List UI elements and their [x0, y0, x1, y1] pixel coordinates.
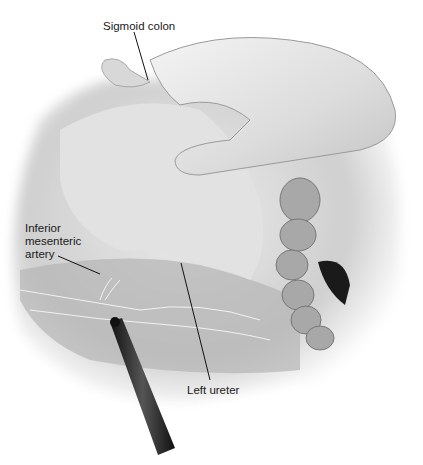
label-sigmoid-colon: Sigmoid colon	[103, 20, 175, 33]
surgical-illustration: Sigmoid colon Inferior mesenteric artery…	[0, 0, 423, 465]
leader-sigmoid-colon	[134, 32, 148, 80]
label-inferior-mesenteric-artery: Inferior mesenteric artery	[25, 222, 81, 261]
label-left-ureter: Left ureter	[187, 384, 239, 397]
